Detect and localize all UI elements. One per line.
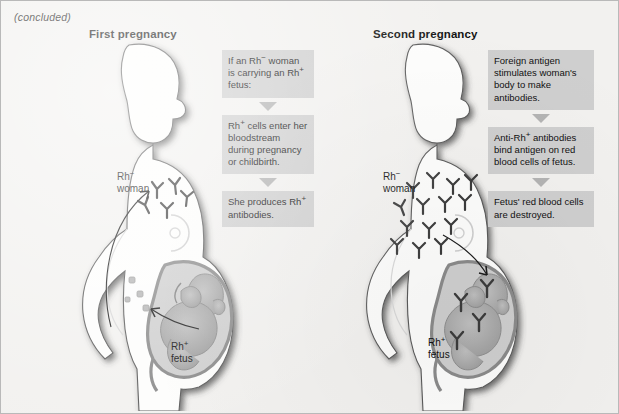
label-line-1: Rh− <box>117 171 134 182</box>
label-rh-negative-woman-second: Rh− woman <box>383 171 415 194</box>
down-triangle-arrow-icon <box>259 178 277 187</box>
flow-step-box: Foreign antigen stimulates woman's body … <box>488 50 594 110</box>
first-pregnancy-illustration <box>53 39 243 411</box>
flow-steps-second-pregnancy: Foreign antigen stimulates woman's body … <box>488 50 594 227</box>
fetal-cell <box>129 277 135 283</box>
label-line-2: woman <box>117 183 149 194</box>
rh-incompatibility-figure: (concluded) First pregnancy Second pregn… <box>0 0 619 414</box>
label-line-1: Rh+ <box>428 337 445 348</box>
label-line-1: Rh+ <box>171 341 188 352</box>
label-line-2: fetus <box>428 349 450 360</box>
flow-steps-first-pregnancy: If an Rh− woman is carrying an Rh+ fetus… <box>222 50 314 227</box>
label-line-1: Rh− <box>383 171 400 182</box>
down-triangle-arrow-icon <box>532 178 550 187</box>
down-triangle-arrow-icon <box>532 114 550 123</box>
y-shaped-antibody <box>394 200 405 215</box>
fetal-cell <box>137 291 143 297</box>
flow-step-box: Fetus' red blood cells are destroyed. <box>488 191 594 226</box>
label-rh-positive-fetus-first: Rh+ fetus <box>171 341 193 364</box>
label-rh-negative-woman-first: Rh− woman <box>117 171 149 194</box>
down-triangle-arrow-icon <box>259 102 277 111</box>
continuation-note: (concluded) <box>14 11 71 23</box>
flow-step-box: If an Rh− woman is carrying an Rh+ fetus… <box>222 50 314 98</box>
label-line-2: woman <box>383 183 415 194</box>
fetal-cell <box>143 305 149 311</box>
label-line-2: fetus <box>171 353 193 364</box>
label-rh-positive-fetus-second: Rh+ fetus <box>428 337 450 360</box>
flow-step-box: Anti-Rh+ antibodies bind antigen on red … <box>488 127 594 175</box>
flow-step-box: She produces Rh+ antibodies. <box>222 191 314 226</box>
flow-step-box: Rh+ cells enter her bloodstream during p… <box>222 115 314 175</box>
fetal-cell <box>125 297 130 302</box>
